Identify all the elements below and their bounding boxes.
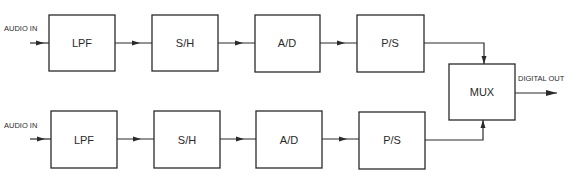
arrow-icon [482,56,487,64]
ps-label-2: P/S [383,134,401,146]
arrow-icon [37,137,45,142]
audio-in-label-1: AUDIO IN [4,24,37,33]
arrow-icon [546,90,557,96]
mux: MUX DIGITAL OUT [449,64,565,120]
audio-in-label-2: AUDIO IN [4,121,37,130]
sh-label-2: S/H [178,134,196,146]
ps-label-1: P/S [381,37,399,49]
wire-ps-mux-1 [424,43,484,64]
arrow-icon [36,41,44,46]
arrow-icon [235,41,243,46]
ad-label-2: A/D [280,134,298,146]
ad-label-1: A/D [278,37,296,49]
channel-1: AUDIO IN LPF S/H A/D P/S [4,15,487,72]
lpf-label-1: LPF [72,37,92,49]
digital-out-label: DIGITAL OUT [518,74,565,83]
lpf-label-2: LPF [74,134,94,146]
mux-label: MUX [470,86,495,98]
arrow-icon [481,120,486,128]
sh-label-1: S/H [176,37,194,49]
block-diagram: AUDIO IN LPF S/H A/D P/S AUDIO IN LPF S/… [0,0,580,179]
wire-ps-mux-2 [425,120,483,140]
arrow-icon [132,41,140,46]
arrow-icon [339,137,347,142]
channel-2: AUDIO IN LPF S/H A/D P/S [4,111,486,169]
arrow-icon [337,41,345,46]
arrow-icon [133,137,141,142]
arrow-icon [236,137,244,142]
